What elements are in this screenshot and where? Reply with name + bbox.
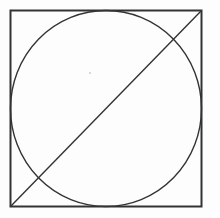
geometry-diagram (0, 0, 220, 218)
diagonal-line (11, 11, 202, 207)
speck-dot (89, 72, 91, 74)
